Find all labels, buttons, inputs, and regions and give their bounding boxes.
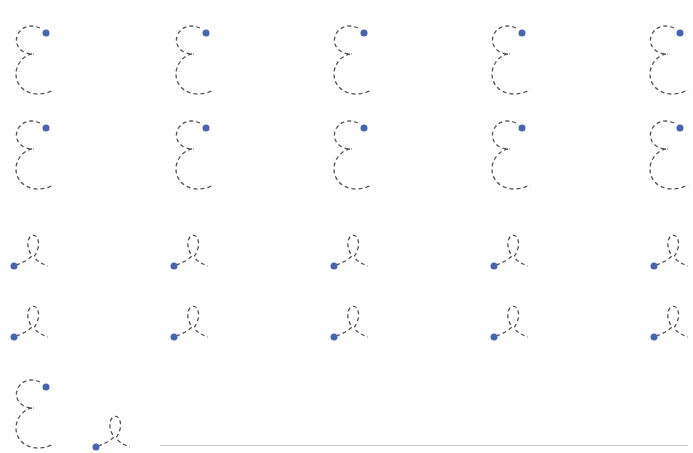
start-dot-icon xyxy=(519,30,526,37)
loop-tracing-glyph xyxy=(8,303,58,345)
start-dot-icon xyxy=(203,125,210,132)
start-dot-icon xyxy=(519,125,526,132)
loop-tracing-glyph xyxy=(328,303,378,345)
start-dot-icon xyxy=(43,125,50,132)
loop-tracing-glyph xyxy=(90,413,140,453)
epsilon-tracing-glyph xyxy=(12,22,62,98)
start-dot-icon xyxy=(491,334,498,341)
epsilon-tracing-glyph xyxy=(12,117,62,193)
epsilon-tracing-glyph xyxy=(12,376,62,452)
start-dot-icon xyxy=(651,263,658,270)
loop-tracing-glyph xyxy=(488,303,538,345)
start-dot-icon xyxy=(43,384,50,391)
start-dot-icon xyxy=(171,334,178,341)
epsilon-tracing-glyph xyxy=(330,22,380,98)
loop-tracing-glyph xyxy=(328,232,378,274)
start-dot-icon xyxy=(491,263,498,270)
epsilon-tracing-glyph xyxy=(646,117,693,193)
start-dot-icon xyxy=(677,125,684,132)
start-dot-icon xyxy=(171,263,178,270)
start-dot-icon xyxy=(361,30,368,37)
writing-baseline xyxy=(160,445,688,446)
start-dot-icon xyxy=(331,263,338,270)
epsilon-tracing-glyph xyxy=(488,117,538,193)
loop-tracing-glyph xyxy=(168,232,218,274)
start-dot-icon xyxy=(11,334,18,341)
start-dot-icon xyxy=(331,334,338,341)
loop-tracing-glyph xyxy=(168,303,218,345)
epsilon-tracing-glyph xyxy=(646,22,693,98)
epsilon-tracing-glyph xyxy=(330,117,380,193)
start-dot-icon xyxy=(11,263,18,270)
epsilon-tracing-glyph xyxy=(488,22,538,98)
loop-tracing-glyph xyxy=(488,232,538,274)
epsilon-tracing-glyph xyxy=(172,117,222,193)
start-dot-icon xyxy=(677,30,684,37)
start-dot-icon xyxy=(203,30,210,37)
start-dot-icon xyxy=(361,125,368,132)
loop-tracing-glyph xyxy=(648,232,693,274)
loop-tracing-glyph xyxy=(8,232,58,274)
loop-tracing-glyph xyxy=(648,303,693,345)
start-dot-icon xyxy=(93,444,100,451)
start-dot-icon xyxy=(651,334,658,341)
start-dot-icon xyxy=(43,30,50,37)
epsilon-tracing-glyph xyxy=(172,22,222,98)
